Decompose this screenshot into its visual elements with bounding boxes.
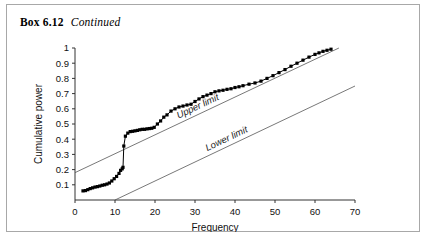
limit-line [75,48,339,173]
data-point-marker [265,77,268,80]
box-number-label: Box 6.12 [20,16,64,28]
data-point-marker [271,74,274,77]
data-point-marker [221,89,224,92]
data-point-marker [121,166,124,169]
x-tick-label: 20 [150,206,161,217]
data-point-marker [115,175,118,178]
data-point-marker [156,122,159,125]
data-point-marker [217,89,220,92]
y-tick-label: 0.2 [56,164,69,175]
x-tick-label: 10 [110,206,121,217]
y-tick-label: 0.7 [56,88,69,99]
x-tick-label: 50 [270,206,281,217]
x-tick-label: 40 [230,206,241,217]
limit-line [115,86,355,200]
data-point-marker [289,65,292,68]
data-point-marker [329,48,332,51]
data-point-marker [237,85,240,88]
data-point-marker [283,68,286,71]
y-tick-label: 0.1 [56,179,69,190]
x-axis-ticks: 010203040506070 [72,200,360,217]
data-point-marker [159,119,162,122]
limit-line-labels: Upper limitLower limit [175,91,250,153]
x-tick-label: 30 [190,206,201,217]
y-tick-label: 0.3 [56,149,69,160]
data-point-marker [169,109,172,112]
y-tick-label: 0.6 [56,103,69,114]
data-point-marker [325,49,328,52]
data-series-markers [81,48,332,193]
data-point-marker [124,135,127,138]
box-figure-page: Box 6.12Continued 0.10.20.30.40.50.60.70… [0,0,434,243]
data-point-marker [277,71,280,74]
x-tick-label: 0 [72,206,77,217]
data-point-marker [259,80,262,83]
y-tick-label: 0.8 [56,73,69,84]
data-point-marker [153,126,156,129]
cumulative-power-chart: 0.10.20.30.40.50.60.70.80.91 01020304050… [0,32,434,232]
data-point-marker [165,113,168,116]
data-point-marker [122,144,125,147]
data-point-marker [317,51,320,54]
y-tick-label: 0.5 [56,118,69,129]
y-tick-label: 1 [64,42,69,53]
data-point-marker [229,87,232,90]
y-tick-label: 0.4 [56,134,69,145]
y-axis-ticks: 0.10.20.30.40.50.60.70.80.91 [56,42,75,190]
box-title: Box 6.12Continued [20,16,121,28]
limit-line-label: Lower limit [203,123,249,153]
chart-svg: 0.10.20.30.40.50.60.70.80.91 01020304050… [0,32,434,232]
y-axis-title: Cumulative power [33,83,44,164]
box-continued-label: Continued [71,16,121,28]
x-tick-label: 70 [350,206,361,217]
data-point-marker [295,62,298,65]
data-point-marker [241,84,244,87]
data-point-marker [117,172,120,175]
data-point-marker [253,81,256,84]
data-point-marker [301,59,304,62]
x-axis-title: Frequency [191,222,238,232]
data-point-marker [313,53,316,56]
data-point-marker [247,83,250,86]
data-point-marker [233,86,236,89]
x-tick-label: 60 [310,206,321,217]
data-point-marker [307,56,310,59]
y-tick-label: 0.9 [56,58,69,69]
data-point-marker [162,116,165,119]
data-point-marker [321,50,324,53]
data-point-marker [225,88,228,91]
